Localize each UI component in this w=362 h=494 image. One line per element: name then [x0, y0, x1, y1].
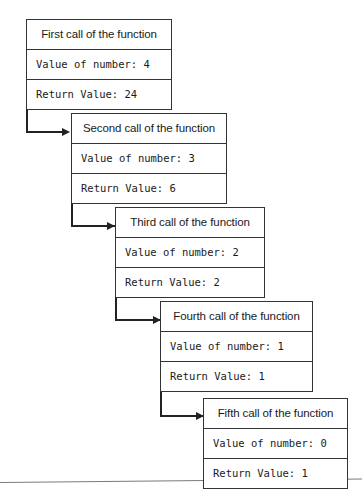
connector-fourth-to-fifth-vertical: [160, 392, 162, 417]
connector-third-to-fourth-vertical: [115, 298, 117, 321]
connector-first-to-second-arrowhead: [62, 128, 70, 136]
connector-second-to-third-vertical: [71, 204, 73, 227]
call-box-fourth: Fourth call of the function Value of num…: [160, 301, 313, 392]
call-box-fourth-title: Fourth call of the function: [161, 302, 312, 332]
call-box-second-title: Second call of the function: [72, 114, 226, 144]
recursion-call-stack-diagram: First call of the function Value of numb…: [0, 0, 362, 494]
call-box-second-value: Value of number: 3: [72, 144, 226, 174]
call-box-second-return: Return Value: 6: [72, 174, 226, 204]
call-box-first-title: First call of the function: [27, 20, 171, 50]
call-box-first: First call of the function Value of numb…: [26, 19, 172, 110]
call-box-third-return: Return Value: 2: [116, 268, 264, 298]
call-box-fifth-value: Value of number: 0: [204, 429, 347, 459]
call-box-fifth-title: Fifth call of the function: [204, 399, 347, 429]
call-box-third-value: Value of number: 2: [116, 238, 264, 268]
call-box-fourth-value: Value of number: 1: [161, 332, 312, 362]
connector-second-to-third-arrowhead: [107, 222, 115, 230]
call-box-second: Second call of the function Value of num…: [71, 113, 227, 204]
call-box-first-return: Return Value: 24: [27, 80, 171, 110]
call-box-fourth-return: Return Value: 1: [161, 362, 312, 392]
call-box-fifth-return: Return Value: 1: [204, 459, 347, 489]
call-box-third-title: Third call of the function: [116, 208, 264, 238]
call-box-first-value: Value of number: 4: [27, 50, 171, 80]
call-box-third: Third call of the function Value of numb…: [115, 207, 265, 298]
call-box-fifth: Fifth call of the function Value of numb…: [203, 398, 348, 489]
connector-first-to-second-vertical: [26, 110, 28, 133]
